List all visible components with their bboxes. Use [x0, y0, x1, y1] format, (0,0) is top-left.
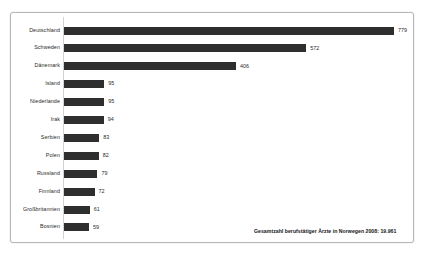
bar-wrapper: 95: [64, 80, 114, 88]
value-label: 61: [94, 207, 100, 212]
value-label: 406: [240, 64, 249, 69]
bar-row: Russland79: [11, 165, 413, 182]
bar: [64, 62, 236, 70]
bar-wrapper: 572: [64, 44, 319, 52]
chart-annotation: Gesamtzahl berufstätiger Ärzte in Norweg…: [254, 228, 396, 234]
bar: [64, 223, 89, 231]
bar-wrapper: 82: [64, 152, 109, 160]
category-label: Bosnien: [40, 225, 60, 230]
bar-row: Polen82: [11, 147, 413, 164]
category-label: Schweden: [34, 46, 60, 51]
bar-row: Deutschland779: [11, 22, 413, 39]
bar: [64, 134, 99, 142]
bar: [64, 98, 104, 106]
value-label: 572: [310, 46, 319, 51]
bar-row: Finnland72: [11, 183, 413, 200]
category-label: Island: [45, 81, 60, 86]
chart-frame: Deutschland779Schweden572Dänemark406Isla…: [10, 12, 414, 243]
bar-row: Dänemark406: [11, 58, 413, 75]
value-label: 95: [108, 81, 114, 86]
value-label: 95: [108, 99, 114, 104]
bar: [64, 188, 95, 196]
value-label: 83: [103, 135, 109, 140]
bar-wrapper: 779: [64, 27, 407, 35]
category-label: Russland: [37, 171, 60, 176]
category-label: Dänemark: [34, 64, 60, 69]
category-label: Serbien: [41, 135, 60, 140]
plot-area: Deutschland779Schweden572Dänemark406Isla…: [11, 13, 413, 242]
value-label: 79: [101, 171, 107, 176]
bar: [64, 27, 394, 35]
bar-row: Irak94: [11, 112, 413, 129]
bar: [64, 80, 104, 88]
bar-row: Großbritannien61: [11, 201, 413, 218]
bar-wrapper: 79: [64, 170, 107, 178]
category-label: Großbritannien: [23, 207, 60, 212]
bar: [64, 152, 99, 160]
bar-wrapper: 72: [64, 188, 105, 196]
bar-wrapper: 406: [64, 62, 249, 70]
value-label: 59: [93, 225, 99, 230]
value-label: 72: [99, 189, 105, 194]
bar: [64, 44, 306, 52]
bar-row: Schweden572: [11, 40, 413, 57]
bar-wrapper: 61: [64, 206, 100, 214]
value-label: 82: [103, 153, 109, 158]
category-label: Finnland: [39, 189, 60, 194]
bar: [64, 206, 90, 214]
category-label: Deutschland: [29, 28, 60, 33]
bar: [64, 116, 104, 124]
bar-wrapper: 94: [64, 116, 114, 124]
bar-wrapper: 59: [64, 223, 99, 231]
value-label: 779: [398, 28, 407, 33]
bar: [64, 170, 97, 178]
value-label: 94: [108, 117, 114, 122]
category-label: Polen: [46, 153, 60, 158]
bar-row: Island95: [11, 76, 413, 93]
category-label: Niederlande: [30, 99, 60, 104]
bar-wrapper: 83: [64, 134, 109, 142]
bar-row: Niederlande95: [11, 94, 413, 111]
bar-wrapper: 95: [64, 98, 114, 106]
bar-row: Serbien83: [11, 129, 413, 146]
category-label: Irak: [51, 117, 60, 122]
